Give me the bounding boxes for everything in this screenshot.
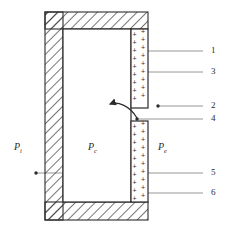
svg-text:+: + [132,79,136,86]
leader-dot-2 [156,104,159,107]
wall-left [45,12,63,220]
wall-bottom [45,202,148,220]
svg-text:+: + [141,92,145,99]
svg-text:+: + [132,63,136,70]
svg-text:+: + [132,171,136,178]
svg-text:+: + [132,195,136,202]
svg-text:+: + [141,76,145,83]
svg-text:+: + [141,128,145,135]
svg-text:+: + [141,52,145,59]
channel-lower-segment: ++ ++ ++ ++ ++ ++ ++ ++ ++ ++ [131,120,148,202]
svg-text:+: + [141,120,145,127]
svg-text:+: + [132,123,136,130]
pressure-subscript: c [94,147,97,154]
svg-text:+: + [141,144,145,151]
svg-text:+: + [132,179,136,186]
svg-text:+: + [141,36,145,43]
svg-text:+: + [132,163,136,170]
technical-diagram: ++ ++ ++ ++ ++ ++ ++ ++ ++ ++ ++ ++ ++ +… [0,0,233,232]
pressure-label-p-e: Pe [158,142,167,155]
svg-text:+: + [141,192,145,199]
svg-text:+: + [132,55,136,62]
svg-text:+: + [132,147,136,154]
svg-text:+: + [132,95,136,102]
svg-text:+: + [141,60,145,67]
leader-dot-5 [34,171,37,174]
callout-label-1: 1 [211,46,216,55]
svg-text:+: + [141,168,145,175]
svg-text:+: + [132,187,136,194]
svg-text:+: + [132,87,136,94]
svg-text:+: + [132,39,136,46]
callout-label-6: 6 [211,188,216,197]
svg-text:+: + [141,176,145,183]
svg-text:+: + [141,136,145,143]
pressure-subscript: e [164,147,167,154]
svg-text:+: + [132,31,136,38]
svg-text:+: + [132,155,136,162]
chamber-cavity [63,29,131,202]
pressure-label-p-i: Pi [14,142,22,155]
svg-text:+: + [132,139,136,146]
callout-label-5: 5 [211,168,216,177]
svg-text:+: + [141,152,145,159]
pressure-subscript: i [20,147,22,154]
callout-label-2: 2 [211,101,216,110]
svg-text:+: + [132,131,136,138]
svg-text:+: + [141,184,145,191]
svg-text:+: + [132,47,136,54]
svg-text:+: + [141,44,145,51]
svg-text:+: + [141,28,145,35]
callout-label-3: 3 [211,67,216,76]
wall-top [45,12,148,29]
svg-text:+: + [141,68,145,75]
callout-label-4: 4 [211,114,216,123]
svg-text:+: + [141,84,145,91]
channel-upper-segment: ++ ++ ++ ++ ++ ++ ++ ++ ++ [131,28,148,108]
diagram-canvas: ++ ++ ++ ++ ++ ++ ++ ++ ++ ++ ++ ++ ++ +… [0,0,233,232]
svg-text:+: + [141,160,145,167]
pressure-label-p-c: Pc [88,142,97,155]
svg-text:+: + [132,71,136,78]
